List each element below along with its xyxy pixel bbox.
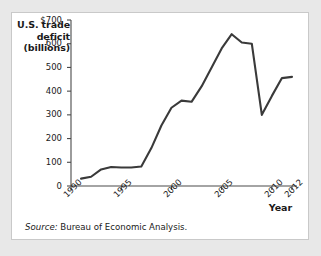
y-tick-label: 300 [22, 110, 62, 119]
source-note: Source: Bureau of Economic Analysis. [25, 222, 187, 232]
source-label: Source: [25, 222, 58, 232]
source-text: Bureau of Economic Analysis. [60, 222, 187, 232]
y-tick-label: 200 [22, 134, 62, 143]
y-tick-label: 500 [22, 63, 62, 72]
y-tick-label: 100 [22, 158, 62, 167]
y-tick-label: $700 [22, 16, 62, 25]
axis-lines [71, 20, 297, 186]
chart-plot-area: U.S. tradedeficit(billions) Year 0100200… [12, 13, 310, 217]
x-tick-marks [71, 186, 292, 190]
y-tick-label: 600 [22, 39, 62, 48]
y-tick-label: 400 [22, 87, 62, 96]
y-tick-label: 0 [22, 182, 62, 191]
y-tick-marks [67, 20, 71, 186]
figure-panel: U.S. tradedeficit(billions) Year 0100200… [11, 12, 309, 240]
trade-deficit-series [81, 34, 292, 178]
